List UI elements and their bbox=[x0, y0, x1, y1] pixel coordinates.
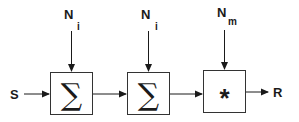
noise-label-1: N bbox=[64, 7, 73, 22]
output-label: R bbox=[273, 85, 283, 100]
noise-sub-2: i bbox=[155, 21, 158, 32]
input-label: S bbox=[10, 87, 19, 102]
noise-sub-3: m bbox=[228, 16, 237, 27]
block-diagram: S ∑ N i ∑ N i * N m R bbox=[0, 0, 299, 122]
asterisk-icon: * bbox=[219, 83, 230, 113]
sigma-icon: ∑ bbox=[138, 77, 160, 112]
noise-label-2: N bbox=[141, 7, 150, 22]
sigma-icon: ∑ bbox=[61, 77, 83, 112]
noise-label-3: N bbox=[217, 5, 226, 20]
noise-sub-1: i bbox=[77, 21, 80, 32]
